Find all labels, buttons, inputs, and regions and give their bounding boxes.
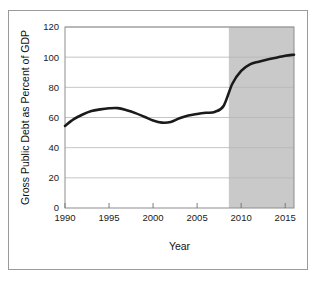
x-axis-title: Year [169, 240, 191, 252]
y-tick-label: 100 [43, 52, 59, 63]
y-tick-label: 80 [48, 82, 59, 93]
x-tick-label: 2000 [143, 212, 164, 223]
x-tick-label: 2015 [275, 212, 296, 223]
x-axis-tick-labels: 199019952000200520102015 [54, 212, 295, 223]
x-tick-label: 2010 [231, 212, 252, 223]
y-tick-label: 40 [48, 142, 59, 153]
y-tick-label: 60 [48, 112, 59, 123]
figure-root: 199019952000200520102015 020406080100120… [0, 0, 322, 282]
x-tick-label: 1995 [98, 212, 119, 223]
y-tick-label: 120 [43, 21, 59, 32]
gross-public-debt-line-chart: 199019952000200520102015 020406080100120… [0, 0, 322, 282]
x-tick-label: 1990 [54, 212, 75, 223]
y-axis-title: Gross Public Debt as Percent of GDP [19, 30, 31, 205]
y-tick-label: 0 [54, 202, 59, 213]
y-tick-label: 20 [48, 172, 59, 183]
x-tick-label: 2005 [187, 212, 208, 223]
y-axis-tick-labels: 020406080100120 [43, 21, 59, 213]
